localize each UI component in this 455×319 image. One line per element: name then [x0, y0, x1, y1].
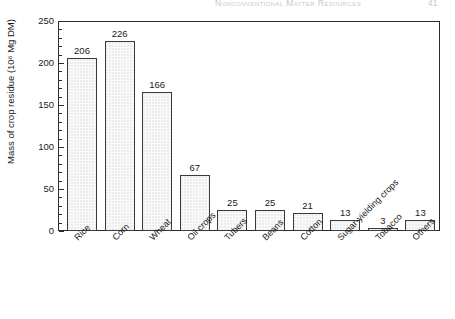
x-axis-tick-label: Oil crops	[186, 211, 217, 242]
x-axis-tick-label: Tubers	[223, 216, 249, 242]
x-axis-tick-label: Cotton	[299, 217, 324, 242]
x-axis-tick-label: Corn	[111, 222, 131, 242]
x-axis-tick-labels: RiceCornWheatOil cropsTubersBeansCottonS…	[0, 0, 455, 319]
x-axis-tick-label: Wheat	[148, 218, 173, 243]
x-axis-tick-label: Rice	[73, 223, 92, 242]
bar-chart-figure: Mass of crop residue (10⁶ Mg DM) 0501001…	[0, 0, 455, 319]
x-axis-tick-label: Beans	[261, 218, 285, 242]
x-axis-tick-label: Sugar-yielding crops	[336, 178, 400, 242]
x-axis-tick-label: Tobacco	[374, 212, 404, 242]
x-axis-tick-label: Others	[411, 217, 436, 242]
